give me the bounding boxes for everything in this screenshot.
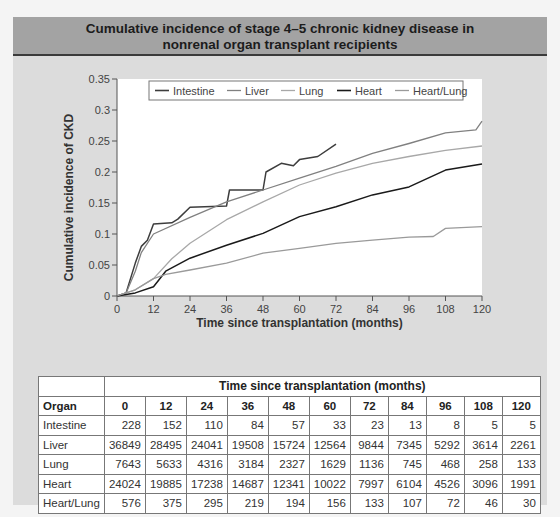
at-risk-count-cell: 6104 [388, 474, 426, 494]
at-risk-count-cell: 5292 [426, 435, 464, 455]
at-risk-count-cell: 15724 [268, 435, 309, 455]
x-tick-label: 60 [293, 303, 305, 315]
organ-cell: Intestine [39, 416, 105, 436]
at-risk-count-cell: 36849 [104, 435, 145, 455]
legend-label: Heart/Lung [413, 85, 467, 97]
table-row: Liver36849284952404119508157241256498447… [39, 435, 541, 455]
table-group-header: Time since transplantation (months) [104, 377, 540, 397]
at-risk-count-cell: 7643 [104, 455, 145, 475]
at-risk-count-cell: 23 [350, 416, 388, 436]
table-corner-cell [39, 377, 105, 397]
at-risk-count-cell: 133 [502, 455, 540, 475]
legend-label: Intestine [173, 85, 215, 97]
table-group-header-row: Time since transplantation (months) [39, 377, 541, 397]
table-row: Heart24024198851723814687123411002279976… [39, 474, 541, 494]
at-risk-count-cell: 133 [350, 494, 388, 514]
month-column-header: 36 [227, 396, 268, 416]
x-tick-label: 24 [184, 303, 196, 315]
at-risk-count-cell: 745 [388, 455, 426, 475]
at-risk-count-cell: 33 [309, 416, 350, 436]
at-risk-count-cell: 295 [186, 494, 227, 514]
at-risk-count-cell: 30 [502, 494, 540, 514]
y-tick-label: 0.15 [89, 197, 110, 209]
legend-label: Lung [299, 85, 323, 97]
organ-cell: Heart [39, 474, 105, 494]
at-risk-count-cell: 3184 [227, 455, 268, 475]
at-risk-count-cell: 12341 [268, 474, 309, 494]
at-risk-count-cell: 375 [145, 494, 186, 514]
table-row: Heart/Lung576375295219194156133107724630 [39, 494, 541, 514]
legend-label: Heart [355, 85, 382, 97]
y-tick-label: 0.3 [95, 104, 110, 116]
month-column-header: 60 [309, 396, 350, 416]
at-risk-count-cell: 5633 [145, 455, 186, 475]
x-tick-label: 12 [147, 303, 159, 315]
at-risk-count-cell: 9844 [350, 435, 388, 455]
legend: IntestineLiverLungHeartHeart/Lung [149, 81, 467, 100]
x-axis-label: Time since transplantation (months) [196, 316, 402, 330]
x-tick-label: 108 [436, 303, 454, 315]
month-column-header: 48 [268, 396, 309, 416]
at-risk-count-cell: 8 [426, 416, 464, 436]
at-risk-count-cell: 468 [426, 455, 464, 475]
at-risk-table: Time since transplantation (months) Orga… [38, 376, 541, 514]
figure-panel: Cumulative incidence of stage 4–5 chroni… [13, 17, 547, 505]
organ-cell: Lung [39, 455, 105, 475]
at-risk-count-cell: 7345 [388, 435, 426, 455]
x-tick-label: 36 [220, 303, 232, 315]
at-risk-count-cell: 84 [227, 416, 268, 436]
at-risk-count-cell: 10022 [309, 474, 350, 494]
at-risk-count-cell: 7997 [350, 474, 388, 494]
at-risk-count-cell: 3096 [464, 474, 502, 494]
month-column-header: 24 [186, 396, 227, 416]
organ-cell: Liver [39, 435, 105, 455]
organ-cell: Heart/Lung [39, 494, 105, 514]
month-column-header: 120 [502, 396, 540, 416]
y-tick-label: 0.1 [95, 228, 110, 240]
month-column-header: 12 [145, 396, 186, 416]
table-column-header-row: Organ 01224364860728496108120 [39, 396, 541, 416]
at-risk-count-cell: 5 [464, 416, 502, 436]
at-risk-count-cell: 110 [186, 416, 227, 436]
at-risk-count-cell: 24041 [186, 435, 227, 455]
at-risk-count-cell: 258 [464, 455, 502, 475]
at-risk-count-cell: 1991 [502, 474, 540, 494]
at-risk-count-cell: 228 [104, 416, 145, 436]
y-tick-label: 0.2 [95, 166, 110, 178]
at-risk-count-cell: 19508 [227, 435, 268, 455]
at-risk-count-cell: 219 [227, 494, 268, 514]
at-risk-count-cell: 5 [502, 416, 540, 436]
x-tick-label: 84 [366, 303, 378, 315]
x-tick-label: 96 [403, 303, 415, 315]
at-risk-count-cell: 19885 [145, 474, 186, 494]
at-risk-count-cell: 4316 [186, 455, 227, 475]
line-chart: 00.050.10.150.20.250.30.3501224364860728… [13, 17, 547, 357]
at-risk-count-cell: 576 [104, 494, 145, 514]
y-tick-label: 0.05 [89, 259, 110, 271]
plot-area [117, 79, 482, 296]
at-risk-count-cell: 2327 [268, 455, 309, 475]
at-risk-count-cell: 4526 [426, 474, 464, 494]
month-column-header: 72 [350, 396, 388, 416]
table-row: Lung764356334316318423271629113674546825… [39, 455, 541, 475]
at-risk-count-cell: 13 [388, 416, 426, 436]
y-tick-label: 0.35 [89, 73, 110, 85]
at-risk-count-cell: 46 [464, 494, 502, 514]
at-risk-count-cell: 57 [268, 416, 309, 436]
month-column-header: 84 [388, 396, 426, 416]
x-tick-label: 72 [330, 303, 342, 315]
month-column-header: 108 [464, 396, 502, 416]
at-risk-count-cell: 1629 [309, 455, 350, 475]
at-risk-count-cell: 14687 [227, 474, 268, 494]
at-risk-count-cell: 2261 [502, 435, 540, 455]
y-tick-label: 0 [104, 290, 110, 302]
at-risk-count-cell: 156 [309, 494, 350, 514]
at-risk-count-cell: 17238 [186, 474, 227, 494]
x-tick-label: 0 [114, 303, 120, 315]
at-risk-count-cell: 152 [145, 416, 186, 436]
at-risk-count-cell: 24024 [104, 474, 145, 494]
x-tick-label: 120 [473, 303, 491, 315]
at-risk-count-cell: 28495 [145, 435, 186, 455]
at-risk-count-cell: 194 [268, 494, 309, 514]
at-risk-count-cell: 107 [388, 494, 426, 514]
